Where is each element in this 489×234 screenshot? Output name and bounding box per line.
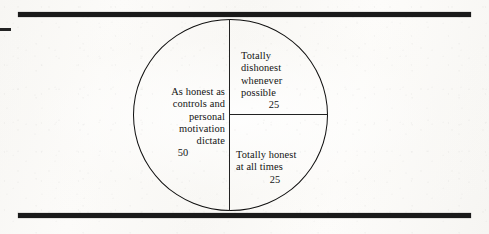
top-horizontal-rule <box>18 12 471 17</box>
pie-slice-label-top-right: Totally dishonest whenever possible 25 <box>241 38 307 123</box>
pie-slice-bottom-right-value: 25 <box>236 174 314 186</box>
figure-page: As honest as controls and personal motiv… <box>0 0 489 234</box>
pie-slice-label-bottom-right: Totally honest at all times 25 <box>236 137 314 198</box>
pie-slice-bottom-right-text: Totally honest at all times <box>236 149 296 172</box>
bottom-horizontal-rule <box>18 213 471 218</box>
pie-slice-left-value: 50 <box>141 147 225 159</box>
margin-dash-mark <box>0 28 11 31</box>
pie-slice-label-left: As honest as controls and personal motiv… <box>141 74 225 172</box>
pie-slice-left-text: As honest as controls and personal motiv… <box>171 86 225 146</box>
pie-slice-top-right-text: Totally dishonest whenever possible <box>241 50 282 98</box>
pie-slice-top-right-value: 25 <box>241 99 307 111</box>
